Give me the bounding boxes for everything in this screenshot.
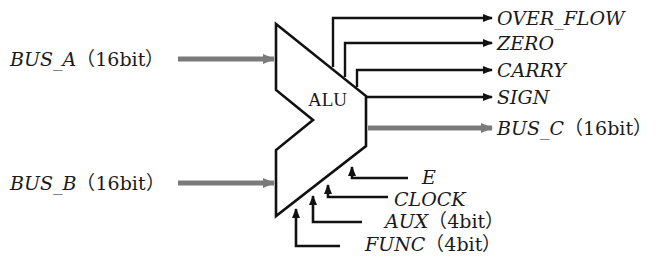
- bus-b-width: （16bit）: [76, 172, 164, 194]
- bus-a-name: BUS_A: [9, 48, 76, 71]
- alu-label: ALU: [308, 89, 347, 110]
- svg-text:SIGN: SIGN: [497, 86, 551, 108]
- bus-b-name: BUS_B: [9, 172, 76, 195]
- clock-control: CLOCK: [328, 185, 467, 210]
- svg-text:BUS_B（16bit）: BUS_B（16bit）: [9, 172, 165, 195]
- e-control: E: [352, 166, 436, 188]
- bus-b-input: BUS_B（16bit）: [9, 172, 274, 195]
- alu-block: [276, 24, 366, 216]
- bus-a-input: BUS_A（16bit）: [9, 48, 274, 71]
- svg-text:FUNC（4bit）: FUNC（4bit）: [364, 233, 501, 255]
- svg-text:CARRY: CARRY: [497, 59, 568, 81]
- svg-text:E: E: [421, 166, 436, 188]
- bus-a-width: （16bit）: [76, 48, 164, 70]
- bus-c-name: BUS_C: [496, 117, 564, 140]
- svg-text:CLOCK: CLOCK: [394, 188, 467, 210]
- sign-output: SIGN: [366, 86, 551, 108]
- bus-c-width: （16bit）: [564, 117, 652, 139]
- svg-text:BUS_C（16bit）: BUS_C（16bit）: [496, 117, 652, 140]
- overflow-output: OVER_FLOW: [333, 7, 626, 67]
- svg-text:ZERO: ZERO: [496, 32, 554, 54]
- alu-diagram: ALU BUS_A（16bit） BUS_B（16bit） OVER_FLOW …: [0, 0, 656, 267]
- carry-output: CARRY: [357, 59, 568, 87]
- svg-text:AUX（4bit）: AUX（4bit）: [383, 210, 504, 232]
- svg-text:BUS_A（16bit）: BUS_A（16bit）: [9, 48, 164, 71]
- svg-text:OVER_FLOW: OVER_FLOW: [497, 7, 626, 30]
- bus-c-output: BUS_C（16bit）: [368, 117, 652, 140]
